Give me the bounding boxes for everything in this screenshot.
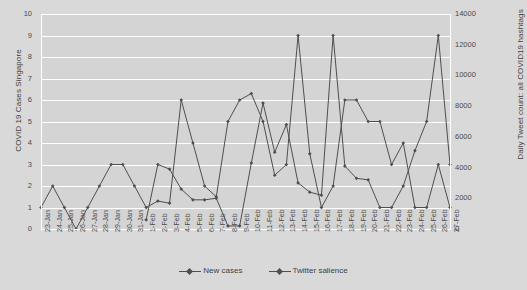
data-point-marker [144, 206, 148, 210]
x-tick-label: 23-Feb [406, 209, 413, 232]
x-tick-label: 15-Feb [313, 209, 320, 232]
series-line [41, 36, 450, 230]
data-point-marker [320, 193, 324, 197]
y-tick-label-right: 10000 [455, 71, 495, 79]
data-point-marker [226, 120, 230, 124]
y-axis-left-title: COVID 19 Cases Singapore [14, 31, 23, 171]
data-point-marker [413, 206, 417, 210]
data-point-marker [285, 123, 289, 127]
data-point-marker [413, 149, 417, 153]
data-point-marker [226, 224, 230, 228]
y-tick-label-right: 12000 [455, 41, 495, 49]
data-point-marker [320, 206, 324, 210]
data-point-marker [250, 92, 254, 96]
x-tick-label: 12-Feb [278, 209, 285, 232]
legend-label: Twitter salience [293, 267, 348, 276]
data-point-marker [156, 199, 160, 203]
data-point-marker [436, 163, 440, 167]
y-tick-label-right: 14000 [455, 10, 495, 18]
data-point-marker [261, 120, 265, 124]
data-point-marker [191, 141, 195, 145]
x-tick-label: 29-Jan [114, 210, 121, 232]
data-point-marker [425, 206, 429, 210]
series-line [146, 36, 450, 226]
data-point-marker [261, 101, 265, 105]
data-point-marker [425, 120, 429, 124]
data-point-marker [179, 98, 183, 102]
data-point-marker [366, 120, 370, 124]
y-tick-label-right: 2000 [455, 194, 495, 202]
y-tick-label-right: 6000 [455, 133, 495, 141]
x-tick-label: 24-Jan [56, 210, 63, 232]
x-tick-label: 7-Feb [219, 213, 226, 232]
data-point-marker [436, 34, 440, 38]
data-point-marker [355, 98, 359, 102]
x-tick-label: 21-Feb [383, 209, 390, 232]
x-tick-label: 19-Feb [360, 209, 367, 232]
x-tick-label: 10-Feb [254, 209, 261, 232]
legend-item-new-cases[interactable]: New cases [179, 266, 242, 275]
y-axis-left-line [41, 14, 42, 230]
chart-container: 012345678910 020004000600080001000012000… [0, 0, 527, 290]
data-point-marker [121, 163, 125, 167]
data-point-marker [98, 184, 102, 188]
data-point-marker [378, 120, 382, 124]
data-point-marker [390, 163, 394, 167]
x-tick-label: 25-Jan [67, 210, 74, 232]
x-tick-label: 28-Jan [102, 210, 109, 232]
data-point-marker [390, 206, 394, 210]
y-tick-label-left: 10 [4, 10, 32, 18]
data-point-marker [109, 163, 113, 167]
y-tick-label-left: 2 [4, 182, 32, 190]
y-tick-label-right: 4000 [455, 164, 495, 172]
data-point-marker [238, 224, 242, 228]
data-point-marker [63, 206, 67, 210]
x-tick-label: 30-Jan [126, 210, 133, 232]
legend-marker-icon [179, 267, 201, 275]
x-tick-label: 25-Feb [430, 209, 437, 232]
data-point-marker [168, 201, 172, 205]
legend-label: New cases [203, 267, 242, 276]
data-point-marker [156, 163, 160, 167]
y-axis-right-line [450, 14, 451, 230]
data-point-marker [401, 141, 405, 145]
y-tick-label-right: 8000 [455, 102, 495, 110]
x-tick-label: 11-Feb [266, 210, 273, 232]
data-point-marker [51, 184, 55, 188]
data-point-marker [343, 98, 347, 102]
x-tick-label: 4-Feb [184, 213, 191, 232]
data-point-marker [133, 184, 137, 188]
legend-marker-icon [269, 267, 291, 275]
chart-legend: New cases Twitter salience [0, 266, 527, 276]
data-point-marker [296, 34, 300, 38]
data-point-marker [238, 98, 242, 102]
data-point-marker [366, 178, 370, 182]
y-axis-right-title: Daily Tweet count: all COVID19 hashtags [516, 0, 525, 175]
data-point-marker [203, 198, 207, 202]
y-tick-label-left: 0 [4, 225, 32, 233]
x-tick-label: 13-Feb [289, 209, 296, 232]
x-tick-label: 14-Feb [301, 209, 308, 232]
legend-item-twitter-salience[interactable]: Twitter salience [269, 266, 348, 275]
data-point-marker [401, 184, 405, 188]
x-tick-label: 18-Feb [348, 209, 355, 232]
data-point-marker [378, 206, 382, 210]
data-point-marker [250, 161, 254, 165]
x-tick-label: 2-Feb [161, 213, 168, 232]
x-tick-label: 6-Feb [208, 213, 215, 232]
data-point-marker [86, 206, 90, 210]
x-tick-label: 8-Feb [231, 213, 238, 232]
x-tick-label: 31-Jan [137, 210, 144, 232]
x-tick-label: 27-Feb [453, 209, 460, 232]
data-point-marker [331, 34, 335, 38]
x-tick-label: 9-Feb [243, 213, 250, 232]
x-tick-label: 16-Feb [324, 209, 331, 232]
y-tick-label-left: 1 [4, 204, 32, 212]
series-lines [41, 14, 450, 229]
x-tick-label: 26-Jan [79, 210, 86, 232]
x-tick-label: 1-Feb [149, 213, 156, 232]
x-tick-label: 27-Jan [91, 210, 98, 232]
y-tick-label-right: 0 [455, 225, 495, 233]
data-point-marker [273, 150, 277, 154]
x-tick-label: 17-Feb [336, 209, 343, 232]
